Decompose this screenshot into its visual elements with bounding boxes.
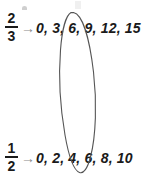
fraction-denominator: 2 [8,158,16,173]
multiples-row-one-half: 1 2 → 0, 2, 4, 6, 8, 10 [4,141,133,173]
right-arrow-icon: → [21,151,35,165]
fraction-one-half: 1 2 [4,141,19,173]
fraction-two-thirds: 2 3 [4,11,19,43]
scan-artifact-left [22,6,27,10]
fraction-numerator: 1 [8,141,16,156]
multiples-row-two-thirds: 2 3 → 0, 3, 6, 9, 12, 15 [4,11,141,43]
scan-artifact-right [75,1,81,9]
math-figure: 2 3 → 0, 3, 6, 9, 12, 15 1 2 → 0, 2, 4, … [0,0,146,180]
fraction-denominator: 3 [8,28,16,43]
multiples-sequence-bottom: 0, 2, 4, 6, 8, 10 [36,150,133,166]
fraction-numerator: 2 [8,11,16,26]
multiples-sequence-top: 0, 3, 6, 9, 12, 15 [36,20,141,36]
right-arrow-icon: → [21,21,35,35]
